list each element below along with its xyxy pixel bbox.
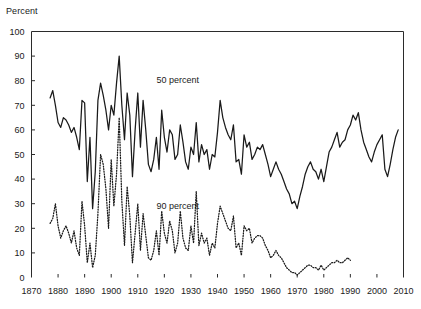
- x-tick-label: 2010: [393, 286, 413, 296]
- x-tick-label: 2000: [367, 286, 387, 296]
- y-tick-label: 50: [14, 150, 24, 160]
- y-tick-label: 80: [14, 76, 24, 86]
- x-tick-label: 1870: [21, 286, 41, 296]
- y-tick-labels: 0102030405060708090100: [9, 27, 24, 283]
- x-tick-label: 1910: [128, 286, 148, 296]
- x-tick-label: 1950: [234, 286, 254, 296]
- x-tick-label: 1940: [207, 286, 227, 296]
- x-tick-label: 1980: [314, 286, 334, 296]
- chart-container: Percent 0102030405060708090100 187018801…: [0, 0, 421, 309]
- x-tick-label: 1890: [75, 286, 95, 296]
- x-tick-labels: 1870188018901900191019201930194019501960…: [21, 286, 413, 296]
- series-annotations: 50 percent90 percent: [156, 75, 199, 210]
- x-tick-label: 1900: [101, 286, 121, 296]
- series-annotation: 90 percent: [156, 201, 199, 211]
- x-tick-label: 1970: [287, 286, 307, 296]
- x-tick-label: 1930: [181, 286, 201, 296]
- y-tick-marks: [32, 56, 36, 253]
- series-line-90-percent: [50, 118, 350, 275]
- y-tick-label: 0: [19, 273, 24, 283]
- y-tick-label: 70: [14, 101, 24, 111]
- series-annotation: 50 percent: [156, 75, 199, 85]
- x-tick-marks: [58, 274, 377, 278]
- x-tick-label: 1880: [48, 286, 68, 296]
- plot-frame: [32, 32, 404, 278]
- y-tick-label: 40: [14, 174, 24, 184]
- y-tick-label: 60: [14, 125, 24, 135]
- y-tick-label: 20: [14, 224, 24, 234]
- x-tick-label: 1990: [340, 286, 360, 296]
- y-tick-label: 90: [14, 51, 24, 61]
- x-tick-label: 1920: [154, 286, 174, 296]
- y-tick-label: 10: [14, 248, 24, 258]
- series-line-50-percent: [50, 56, 398, 209]
- y-tick-label: 30: [14, 199, 24, 209]
- x-tick-label: 1960: [261, 286, 281, 296]
- y-tick-label: 100: [9, 27, 24, 37]
- line-chart-plot: 0102030405060708090100 18701880189019001…: [0, 0, 421, 309]
